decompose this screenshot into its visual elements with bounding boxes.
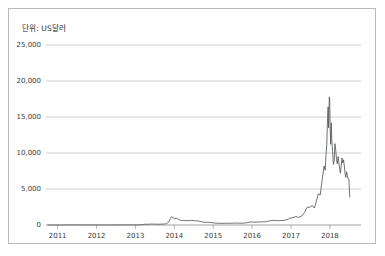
- x-axis-tick-labels: 20112012201320142015201620172018: [49, 232, 339, 240]
- line-chart: 05,00010,00015,00020,00025,000 201120122…: [9, 9, 377, 245]
- y-axis-tick-labels: 05,00010,00015,00020,00025,000: [17, 41, 42, 229]
- x-tick-label: 2014: [165, 232, 183, 240]
- x-tick-label: 2015: [204, 232, 222, 240]
- x-tick-label: 2012: [88, 232, 106, 240]
- y-tick-label: 5,000: [21, 185, 41, 193]
- y-tick-label: 15,000: [17, 113, 42, 121]
- x-axis-tick-marks: [58, 225, 330, 229]
- y-tick-label: 0: [37, 221, 41, 229]
- x-tick-label: 2013: [127, 232, 145, 240]
- y-tick-label: 10,000: [17, 149, 42, 157]
- x-tick-label: 2017: [282, 232, 300, 240]
- y-tick-label: 25,000: [17, 41, 42, 49]
- x-tick-label: 2011: [49, 232, 67, 240]
- y-tick-label: 20,000: [17, 77, 42, 85]
- x-tick-label: 2016: [243, 232, 261, 240]
- x-tick-label: 2018: [321, 232, 339, 240]
- price-line-series: [48, 97, 350, 225]
- gridlines: [46, 45, 361, 225]
- chart-card: 단위: US달러 05,00010,00015,00020,00025,000 …: [8, 8, 376, 244]
